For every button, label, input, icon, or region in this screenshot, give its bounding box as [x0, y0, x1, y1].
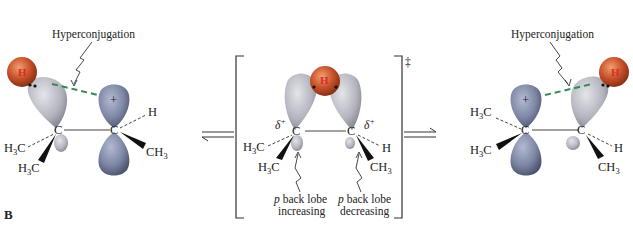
squiggle-arrow-left — [74, 42, 92, 84]
methyl-wedge-label: CH3 — [370, 160, 392, 176]
partial-charge-left: δ+ — [275, 116, 286, 131]
bracket-right — [394, 56, 402, 218]
transition-state: ‡ H C C δ+ δ+ H3C H3C H CH3 p back lobe … — [236, 56, 411, 218]
methyl-wedge-label: CH3 — [598, 160, 620, 176]
wedge-bond — [586, 135, 604, 159]
equilibrium-arrow-left — [202, 132, 234, 141]
carbon-label: C — [521, 123, 529, 137]
wedge-bond — [38, 134, 56, 163]
carbon-label: C — [577, 123, 585, 137]
carbon-label: C — [292, 124, 300, 138]
note-right-line2: decreasing — [340, 205, 389, 218]
hyperconjugation-label-left: Hyperconjugation — [52, 28, 135, 41]
back-lobe-decreasing — [345, 137, 355, 149]
panel-label: B — [4, 207, 13, 222]
hydrogen-dash-label: H — [148, 105, 157, 119]
bracket-left — [236, 56, 244, 218]
methyl-dash-label: H3C — [470, 105, 492, 121]
carbon-label: C — [347, 124, 355, 138]
hydrogen-label: H — [611, 66, 620, 78]
equilibrium-arrow-right — [404, 128, 436, 137]
positive-charge-icon: + — [110, 93, 117, 107]
hydrogen-dash-label: H — [382, 141, 391, 155]
methyl-wedge-label: CH3 — [146, 145, 168, 161]
carbon-label: C — [54, 123, 62, 137]
hyperconjugation-label-right: Hyperconjugation — [511, 28, 594, 41]
methyl-dash-label: H3C — [243, 140, 265, 156]
sp3-lobe-left — [28, 77, 67, 128]
wedge-bond — [276, 135, 294, 160]
right-structure: Hyperconjugation + H C C H3C H3C H CH3 — [470, 28, 629, 176]
hydrogen-label: H — [320, 74, 329, 86]
note-left-line2: increasing — [278, 205, 326, 218]
methyl-wedge-label: H3C — [18, 161, 40, 177]
methyl-wedge-label: H3C — [470, 143, 492, 159]
methyl-wedge-label: H3C — [258, 160, 280, 176]
positive-charge-icon: + — [522, 93, 529, 107]
methyl-dash-label: H3C — [4, 141, 26, 157]
partial-charge-right: δ+ — [364, 116, 375, 131]
hydrogen-dash-label: H — [614, 141, 623, 155]
double-dagger-icon: ‡ — [405, 56, 411, 68]
hydride-shift-diagram: Hyperconjugation H + C C H3C H3C H CH3 B — [0, 0, 633, 227]
p-orbital-bottom-right — [511, 132, 542, 176]
left-structure: Hyperconjugation H + C C H3C H3C H CH3 B — [4, 28, 168, 222]
carbon-label: C — [110, 123, 118, 137]
p-orbital-bottom-left — [99, 132, 130, 176]
back-lobe-right — [566, 136, 580, 150]
hydrogen-label: H — [18, 66, 27, 78]
squiggle-arrow-right — [550, 42, 568, 84]
